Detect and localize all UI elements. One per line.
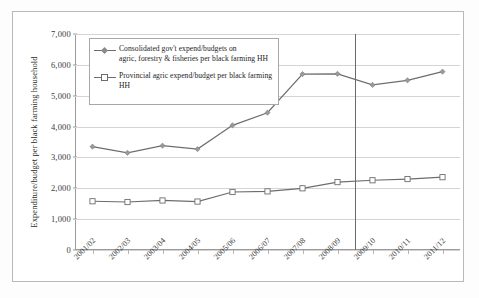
data-point-marker (90, 199, 95, 204)
x-axis-tick-labels: 2001/022002/032003/042004/052005/062006/… (75, 255, 460, 298)
data-point-marker (195, 199, 200, 204)
data-point-marker (125, 150, 130, 155)
data-point-marker (230, 189, 235, 194)
data-point-marker (160, 198, 165, 203)
y-axis-tick-label: 7,000 (51, 29, 71, 39)
y-axis-tick-labels: 7,0006,0005,0004,0003,0002,0001,0000 (31, 34, 71, 250)
y-axis-tick-label: 1,000 (51, 214, 71, 224)
chart-frame: Expenditure/budget per black farming hou… (12, 11, 464, 282)
chart-figure: Expenditure/budget per black farming hou… (0, 0, 479, 298)
data-point-marker (90, 144, 95, 149)
data-point-marker (160, 143, 165, 148)
data-point-marker (405, 176, 410, 181)
legend-line-1: Provincial agric expend/budget per black… (119, 71, 272, 80)
data-point-marker (265, 189, 270, 194)
data-point-marker (370, 82, 375, 87)
data-point-marker (335, 180, 340, 185)
data-point-marker (335, 71, 340, 76)
square-marker-icon (94, 72, 116, 84)
x-axis-tick-mark (373, 250, 374, 254)
legend-line-2: HH (119, 81, 130, 90)
legend-entry-provincial-label: Provincial agric expend/budget per black… (119, 71, 272, 91)
legend-entry-provincial: Provincial agric expend/budget per black… (94, 71, 274, 91)
x-axis-tick-mark (268, 250, 269, 254)
x-axis-tick-mark (443, 250, 444, 254)
y-axis-tick-label: 4,000 (51, 122, 71, 132)
data-point-marker (440, 175, 445, 180)
y-axis-tick-label: 3,000 (51, 152, 71, 162)
x-axis-tick-mark (163, 250, 164, 254)
x-axis-tick-mark (408, 250, 409, 254)
x-axis-tick-mark (198, 250, 199, 254)
y-axis-tick-label: 6,000 (51, 60, 71, 70)
y-axis-tick-label: 2,000 (51, 183, 71, 193)
legend-line-1: Consolidated gov't expend/budgets on (119, 44, 237, 53)
x-axis-tick-mark (128, 250, 129, 254)
data-point-marker (125, 199, 130, 204)
x-axis-tick-mark (233, 250, 234, 254)
data-point-marker (370, 178, 375, 183)
legend-entry-consolidated-label: Consolidated gov't expend/budgets on agr… (119, 44, 268, 64)
x-axis-tick-mark (93, 250, 94, 254)
y-axis-tick-label: 0 (67, 245, 71, 255)
legend-entry-consolidated: Consolidated gov't expend/budgets on agr… (94, 44, 274, 64)
x-axis-tick-mark (303, 250, 304, 254)
x-axis-tick-mark (338, 250, 339, 254)
data-point-marker (405, 78, 410, 83)
data-point-marker (440, 69, 445, 74)
legend-line-2: agric, forestry & fisheries per black fa… (119, 54, 268, 63)
data-point-marker (300, 186, 305, 191)
diamond-marker-icon (94, 45, 116, 57)
chart-legend: Consolidated gov't expend/budgets on agr… (89, 38, 279, 105)
y-axis-tick-label: 5,000 (51, 91, 71, 101)
